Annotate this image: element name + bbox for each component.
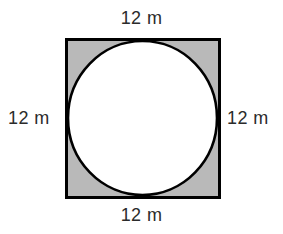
dimension-label-top: 12 m bbox=[0, 9, 283, 27]
inscribed-circle-shape bbox=[68, 41, 217, 195]
dimension-label-bottom: 12 m bbox=[0, 206, 283, 224]
dimension-label-right: 12 m bbox=[227, 109, 269, 127]
geometry-figure: 12 m 12 m 12 m 12 m bbox=[0, 0, 283, 234]
dimension-label-left: 12 m bbox=[8, 109, 50, 127]
